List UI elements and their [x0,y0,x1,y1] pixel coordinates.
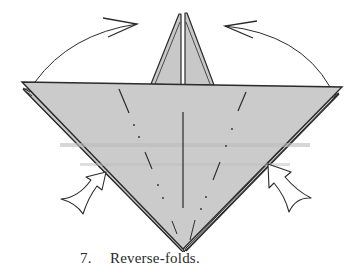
right-arc-arrow [225,21,330,87]
scan-band [60,143,310,147]
crease-dot [231,128,233,130]
left-push-arrow-shape [61,172,106,214]
crease-dot [162,197,164,199]
top-flap-right-half [185,13,214,85]
step-caption: 7.Reverse-folds. [80,250,200,267]
crease-dot [133,124,135,126]
right-arc-arrow-head [225,21,257,38]
crease-dot [157,184,159,186]
top-flap [151,13,214,85]
step-number: 7. [80,250,110,267]
main-triangle [22,82,342,249]
top-flap-left-half [151,14,181,85]
right-arc-arrow-curve [225,26,330,87]
left-arc-arrow-curve [35,24,137,82]
scan-band [80,163,290,166]
step-instruction: Reverse-folds. [110,250,200,266]
right-push-arrow [268,164,311,212]
crease-dot [205,196,207,198]
origami-diagram [0,0,363,276]
crease-dot [200,208,202,210]
left-push-arrow [61,172,106,214]
crease-dot [138,136,140,138]
left-arc-arrow [35,18,137,82]
crease-dot [225,145,227,147]
right-push-arrow-shape [268,164,311,212]
